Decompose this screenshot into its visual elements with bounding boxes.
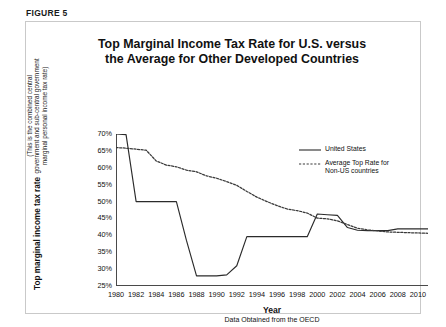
x-axis-tick-label: 1990 bbox=[209, 290, 225, 299]
legend-label-non-us-average: Average Top Rate for Non-US countries bbox=[325, 159, 389, 175]
chart-legend: United States Average Top Rate for Non-U… bbox=[296, 142, 420, 183]
y-axis-tick-label: 30% bbox=[97, 265, 112, 273]
x-axis-tick-label: 2002 bbox=[329, 290, 345, 299]
y-axis-tick-labels: 25%30%35%40%45%50%55%60%65%70% bbox=[84, 134, 112, 286]
y-axis-tick-label: 45% bbox=[97, 214, 112, 222]
y-axis-tick-label: 35% bbox=[97, 248, 112, 256]
legend-dashed-line-icon bbox=[299, 160, 321, 168]
chart-title: Top Marginal Income Tax Rate for U.S. ve… bbox=[72, 37, 392, 67]
y-axis-tick-label: 60% bbox=[97, 164, 112, 172]
x-axis-tick-label: 1998 bbox=[289, 290, 305, 299]
x-axis-title: Year bbox=[116, 305, 428, 315]
chart-source-note: Data Obtained from the OECD bbox=[116, 316, 428, 323]
y-axis-tick-label: 70% bbox=[97, 130, 112, 138]
x-axis-tick-label: 2006 bbox=[370, 290, 386, 299]
x-axis-tick-label: 2000 bbox=[309, 290, 325, 299]
x-axis-tick-label: 1996 bbox=[269, 290, 285, 299]
x-axis-tick-label: 1984 bbox=[148, 290, 164, 299]
x-axis-tick-label: 1982 bbox=[128, 290, 144, 299]
legend-item-non-us-average: Average Top Rate for Non-US countries bbox=[299, 159, 418, 175]
chart-frame: Top Marginal Income Tax Rate for U.S. ve… bbox=[25, 21, 421, 314]
legend-item-united-states: United States bbox=[299, 145, 418, 154]
x-axis-tick-label: 1994 bbox=[249, 290, 265, 299]
y-axis-tick-label: 55% bbox=[97, 181, 112, 189]
y-axis-title-block: Top marginal income tax rate (This is th… bbox=[20, 58, 54, 290]
x-axis-tick-label: 2004 bbox=[349, 290, 365, 299]
x-axis-tick-label: 2010 bbox=[410, 290, 426, 299]
x-axis-tick-label: 1992 bbox=[229, 290, 245, 299]
x-axis-tick-label: 1980 bbox=[108, 290, 124, 299]
figure-number-label: FIGURE 5 bbox=[26, 8, 68, 18]
chart-title-line-1: Top Marginal Income Tax Rate for U.S. ve… bbox=[72, 37, 392, 52]
legend-label-united-states: United States bbox=[325, 145, 366, 153]
y-axis-tick-label: 65% bbox=[97, 147, 112, 155]
chart-title-line-2: the Average for Other Developed Countrie… bbox=[72, 52, 392, 67]
x-axis-tick-label: 1986 bbox=[168, 290, 184, 299]
y-axis-tick-label: 40% bbox=[97, 231, 112, 239]
x-axis-tick-label: 2008 bbox=[390, 290, 406, 299]
y-axis-subtitle: (This is the combined central government… bbox=[26, 58, 48, 174]
legend-label-non-us-line-2: Non-US countries bbox=[325, 167, 389, 175]
x-axis-tick-labels: 1980198219841986198819901992199419961998… bbox=[116, 290, 428, 302]
figure-container: FIGURE 5 Top Marginal Income Tax Rate fo… bbox=[0, 0, 446, 327]
y-axis-title: Top marginal income tax rate bbox=[33, 177, 42, 290]
y-axis-tick-label: 50% bbox=[97, 198, 112, 206]
legend-label-non-us-line-1: Average Top Rate for bbox=[325, 159, 389, 167]
legend-solid-line-icon bbox=[299, 146, 321, 154]
y-axis-tick-label: 25% bbox=[97, 282, 112, 290]
x-axis-tick-label: 1988 bbox=[188, 290, 204, 299]
